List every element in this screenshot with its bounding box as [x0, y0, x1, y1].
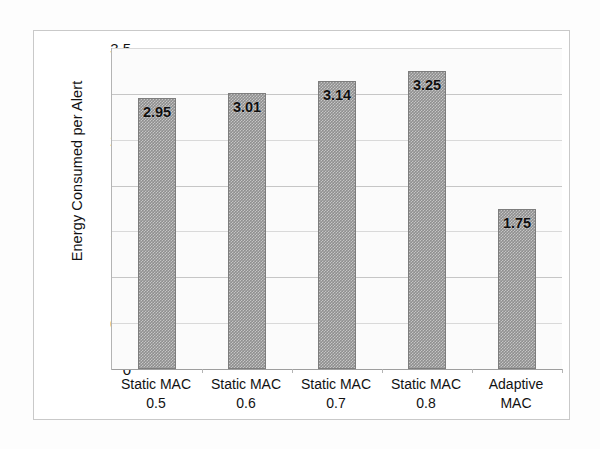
gridline	[112, 48, 562, 49]
x-axis-category-label-line: Static MAC	[201, 375, 291, 394]
bar: 1.75	[498, 209, 536, 370]
x-axis-category-label-line: Static MAC	[381, 375, 471, 394]
x-axis-category-label: Static MAC0.7	[291, 375, 381, 413]
bar-value-label: 3.14	[323, 87, 351, 103]
x-axis-tick-mark	[202, 369, 203, 373]
bar-value-label: 2.95	[143, 104, 171, 120]
x-axis-category-label-line: MAC	[471, 394, 561, 413]
gridline	[112, 369, 562, 370]
x-axis-tick-mark	[382, 369, 383, 373]
x-axis-category-label-line: Adaptive	[471, 375, 561, 394]
x-axis-category-label: Static MAC0.6	[201, 375, 291, 413]
scanned-page-background: Energy Consumed per Alert 00.511.522.533…	[0, 0, 600, 449]
x-axis-tick-mark	[292, 369, 293, 373]
x-axis-category-label-line: Static MAC	[291, 375, 381, 394]
x-axis-category-label-line: 0.5	[111, 394, 201, 413]
chart-frame: Energy Consumed per Alert 00.511.522.533…	[33, 30, 570, 420]
x-axis-category-label-line: 0.7	[291, 394, 381, 413]
x-axis-category-label-line: 0.8	[381, 394, 471, 413]
bar-value-label: 3.01	[233, 99, 261, 115]
x-axis-category-label: Static MAC0.5	[111, 375, 201, 413]
x-axis-tick-labels: Static MAC0.5Static MAC0.6Static MAC0.7S…	[111, 375, 561, 419]
bar: 3.25	[408, 71, 446, 369]
bar-value-label: 3.25	[413, 77, 441, 93]
plot-area: 2.953.013.143.251.75	[111, 48, 562, 370]
x-axis-category-label: AdaptiveMAC	[471, 375, 561, 413]
x-axis-tick-mark	[472, 369, 473, 373]
y-axis-title: Energy Consumed per Alert	[69, 46, 85, 296]
bar: 2.95	[138, 98, 176, 369]
x-axis-category-label-line: 0.6	[201, 394, 291, 413]
bar: 3.01	[228, 93, 266, 369]
bar-value-label: 1.75	[503, 215, 531, 231]
x-axis-category-label-line: Static MAC	[111, 375, 201, 394]
x-axis-tick-mark	[562, 369, 563, 373]
bar: 3.14	[318, 81, 356, 369]
x-axis-category-label: Static MAC0.8	[381, 375, 471, 413]
